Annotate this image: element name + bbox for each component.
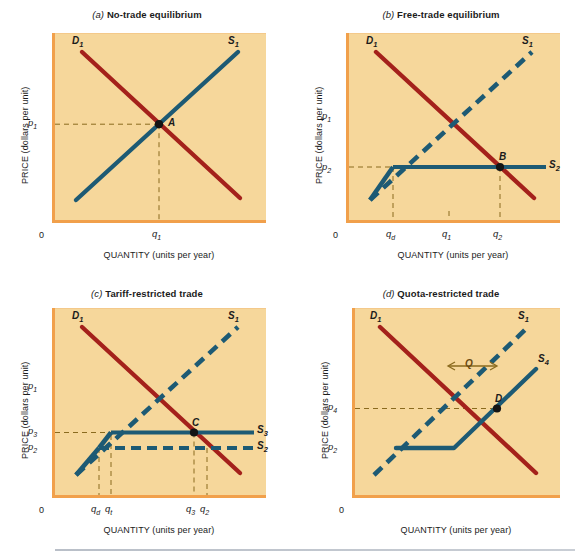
panel-c-xtick-q3: q3 bbox=[186, 503, 195, 516]
panel-b-x-axis-title: QUANTITY (units per year) bbox=[346, 250, 560, 260]
panel-c-tag: (c) bbox=[91, 288, 102, 299]
panel-c-title-text: Tariff-restricted trade bbox=[105, 288, 203, 299]
panel-b-tag: (b) bbox=[382, 9, 394, 20]
panel-b-ytick-p1: p1 bbox=[322, 110, 331, 123]
panel-c-plot-area: D1 S1 S3 S2 C bbox=[52, 308, 266, 498]
panel-a-xtick-q1: q1 bbox=[152, 228, 161, 241]
panel-c-xtick-q2: q2 bbox=[200, 503, 209, 516]
panel-a: (a) No-trade equilibrium D1D1 bbox=[0, 0, 294, 278]
panel-c-ytick-p3: p3 bbox=[28, 425, 37, 438]
panel-c-demand-label: D1 bbox=[72, 310, 83, 324]
panel-d-x-axis-title: QUANTITY (units per year) bbox=[352, 525, 560, 535]
panel-d-supply-label-s1: S1 bbox=[518, 310, 529, 324]
panel-b-xtick-q2: q2 bbox=[493, 228, 502, 241]
panel-b-title: (b) Free-trade equilibrium bbox=[294, 9, 588, 20]
panel-a-point-label-A: A bbox=[168, 117, 175, 128]
panel-b-curves bbox=[346, 33, 560, 223]
panel-d-demand-curve bbox=[380, 327, 536, 473]
panel-c-supply-label-s2: S2 bbox=[257, 440, 268, 454]
panel-a-x-axis-title: QUANTITY (units per year) bbox=[52, 250, 266, 260]
panel-a-equilibrium-dot bbox=[155, 120, 163, 128]
panel-b-equilibrium-dot bbox=[496, 163, 504, 171]
panel-d-curves bbox=[352, 308, 560, 498]
panel-a-tag: (a) bbox=[92, 9, 104, 20]
panel-c-ytick-p1: p1 bbox=[28, 380, 37, 393]
panel-b-plot-area: D1 S1 S2 B bbox=[346, 33, 560, 223]
panel-d-demand-label: D1 bbox=[370, 310, 381, 324]
panel-c-supply-label-s1: S1 bbox=[228, 310, 239, 324]
panel-a-plot-area: D1D1 S1 A bbox=[52, 33, 266, 223]
panel-c-equilibrium-dot bbox=[190, 428, 198, 436]
panel-b-ytick-p2: p2 bbox=[322, 161, 331, 174]
panel-d-tag: (d) bbox=[383, 288, 395, 299]
panel-a-title: (a) No-trade equilibrium bbox=[0, 9, 294, 20]
panel-c-xtick-qd: qd bbox=[91, 503, 100, 516]
panel-a-y-axis-title: PRICE (dollars per unit) bbox=[20, 87, 30, 184]
panel-c-curves bbox=[52, 308, 266, 498]
panel-d-ytick-p2: p2 bbox=[328, 441, 337, 454]
figure-container: (a) No-trade equilibrium D1D1 bbox=[0, 0, 588, 557]
panel-d-title: (d) Quota-restricted trade bbox=[294, 288, 588, 299]
panel-b: (b) Free-trade equilibrium bbox=[294, 0, 588, 278]
panel-c-point-label-C: C bbox=[192, 417, 199, 428]
panel-c-origin: 0 bbox=[39, 505, 44, 515]
panel-d-equilibrium-dot bbox=[493, 404, 501, 412]
panel-c-x-axis-title: QUANTITY (units per year) bbox=[52, 525, 266, 535]
panel-d-supply-label-s4: S4 bbox=[538, 353, 549, 367]
panel-c-supply-curve-s1 bbox=[76, 327, 238, 475]
panel-b-title-text: Free-trade equilibrium bbox=[397, 9, 500, 20]
panel-a-origin: 0 bbox=[39, 230, 44, 240]
panel-a-supply-label: S1 bbox=[228, 35, 239, 49]
panel-d-quota-label: Q bbox=[465, 358, 473, 369]
panel-b-supply-curve-s1 bbox=[370, 52, 532, 200]
panel-b-point-label-B: B bbox=[499, 151, 506, 162]
panel-d-point-label-D: D bbox=[495, 393, 502, 404]
panel-d: (d) Quota-restricted trade bbox=[294, 279, 588, 557]
panel-b-origin: 0 bbox=[333, 230, 338, 240]
panel-b-supply-label-s1: S1 bbox=[522, 35, 533, 49]
panel-b-demand-label: D1 bbox=[366, 35, 377, 49]
panel-a-title-text: No-trade equilibrium bbox=[107, 9, 202, 20]
panel-a-ytick-p1: p1 bbox=[28, 117, 37, 130]
panel-d-plot-area: D1 S1 S4 D Q bbox=[352, 308, 560, 498]
panel-c-supply-curve-s1-solid-lower bbox=[76, 448, 99, 475]
bottom-divider-rule bbox=[55, 549, 575, 551]
panel-c-title: (c) Tariff-restricted trade bbox=[0, 288, 294, 299]
panel-d-origin: 0 bbox=[339, 505, 344, 515]
panel-a-curves bbox=[52, 33, 266, 223]
panel-d-ytick-p4: p4 bbox=[328, 401, 337, 414]
panel-c-ytick-p2: p2 bbox=[28, 441, 37, 454]
panel-b-xtick-qd: qd bbox=[386, 228, 395, 241]
panel-c: (c) Tariff-restricted trade bbox=[0, 279, 294, 557]
panel-b-supply-label-s2: S2 bbox=[549, 159, 560, 173]
panel-d-title-text: Quota-restricted trade bbox=[397, 288, 499, 299]
panel-c-xtick-qt: qt bbox=[105, 503, 112, 516]
panel-b-xtick-q1: q1 bbox=[442, 228, 451, 241]
panel-a-demand-label: D1D1 bbox=[72, 35, 83, 49]
panel-c-supply-label-s3: S3 bbox=[257, 424, 268, 438]
